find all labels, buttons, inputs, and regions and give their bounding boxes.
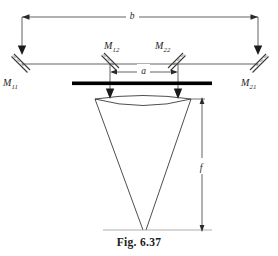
lens-lower-surface [95, 99, 191, 106]
dimension-b-arrow-right [251, 14, 259, 20]
dimension-a-label: a [141, 66, 146, 76]
cone-edge-right [146, 99, 191, 230]
dimension-f-group: f [191, 97, 208, 232]
mirror-M11-label-base: M [2, 77, 12, 88]
mirror-M22-label-subscript: 22 [164, 46, 171, 53]
mirror-M22-label-base: M [154, 40, 164, 51]
mirror-M12-label-subscript: 12 [113, 46, 120, 53]
beam-bar [72, 82, 212, 86]
dimension-f-arrow-top [200, 97, 205, 104]
dimension-b-group: b [18, 9, 262, 55]
converging-lens [95, 96, 191, 106]
mirror-M21: M 21 [240, 54, 269, 90]
dimension-f-arrow-bottom [200, 225, 205, 232]
optical-diagram: b M 11 M 12 [0, 0, 278, 256]
dimension-b-arrow-down-left [18, 46, 26, 56]
dimension-a-group: a [110, 64, 178, 76]
mirror-M12: M 12 [102, 40, 120, 71]
dimension-a-arrow-right [171, 69, 178, 74]
figure-container: b M 11 M 12 [0, 0, 278, 256]
figure-caption: Fig. 6.37 [0, 236, 278, 248]
cone-edge-left [95, 99, 143, 230]
mirror-M12-label-base: M [103, 40, 113, 51]
dimension-b-arrow-down-right [254, 46, 262, 56]
mirror-M21-label-base: M [240, 77, 250, 88]
mirror-M21-label-subscript: 21 [250, 83, 257, 90]
dimension-b-label: b [130, 11, 135, 21]
converging-beam-cone [95, 99, 212, 230]
dimension-b-arrow-left [22, 14, 30, 20]
mirror-M11: M 11 [2, 54, 30, 90]
dimension-a-arrow-left [110, 69, 117, 74]
mirror-M11-label-subscript: 11 [12, 83, 18, 90]
mirror-M22: M 22 [154, 40, 186, 71]
